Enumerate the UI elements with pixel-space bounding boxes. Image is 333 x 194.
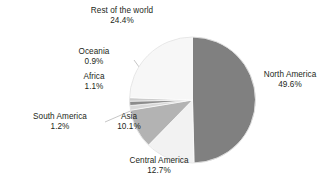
slice-label-name: Africa bbox=[38, 72, 150, 82]
slice-label-percent: 12.7% bbox=[96, 166, 222, 176]
slice-label-rest-of-the-world: Rest of the world 24.4% bbox=[58, 6, 186, 26]
slice-label-africa: Africa 1.1% bbox=[38, 72, 150, 92]
slice-label-name: South America bbox=[0, 112, 120, 122]
pie-chart: North America 49.6% Central America 12.7… bbox=[0, 0, 333, 194]
slice-label-percent: 49.6% bbox=[247, 80, 333, 90]
slice-label-south-america: South America 1.2% bbox=[0, 112, 120, 132]
slice-label-north-america: North America 49.6% bbox=[247, 70, 333, 90]
slice-label-percent: 1.2% bbox=[0, 122, 120, 132]
slice-label-oceania: Oceania 0.9% bbox=[38, 47, 150, 67]
slice-label-percent: 24.4% bbox=[58, 16, 186, 26]
slice-label-name: Oceania bbox=[38, 47, 150, 57]
slice-label-name: North America bbox=[247, 70, 333, 80]
slice-label-name: Rest of the world bbox=[58, 6, 186, 16]
slice-label-percent: 0.9% bbox=[38, 57, 150, 67]
slice-label-central-america: Central America 12.7% bbox=[96, 156, 222, 176]
slice-label-name: Central America bbox=[96, 156, 222, 166]
pie-slice-north-america bbox=[193, 37, 256, 163]
slice-label-percent: 1.1% bbox=[38, 82, 150, 92]
